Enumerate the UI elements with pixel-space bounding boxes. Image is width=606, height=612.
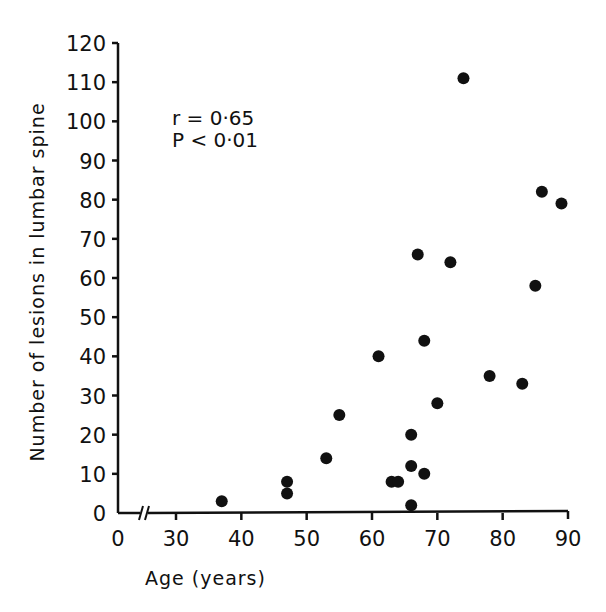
- y-tick-label: 50: [79, 306, 106, 330]
- data-point: [536, 186, 548, 198]
- data-point: [281, 487, 293, 499]
- y-tick-label: 60: [79, 267, 106, 291]
- scatter-chart: 0102030405060708090100110120 03040506070…: [0, 0, 606, 612]
- data-point: [405, 429, 417, 441]
- y-tick-label: 90: [79, 150, 106, 174]
- y-tick-label: 80: [79, 189, 106, 213]
- x-tick-label: 40: [228, 527, 255, 551]
- data-point: [373, 350, 385, 362]
- data-point: [405, 499, 417, 511]
- y-tick-label: 100: [66, 110, 106, 134]
- x-tick-label: 50: [293, 527, 320, 551]
- data-point: [281, 476, 293, 488]
- data-point: [405, 460, 417, 472]
- data-point: [444, 256, 456, 268]
- y-tick-label: 10: [79, 463, 106, 487]
- y-tick-label: 30: [79, 385, 106, 409]
- data-point: [392, 476, 404, 488]
- x-axis-title: Age (years): [145, 567, 266, 589]
- y-tick-label: 120: [66, 32, 106, 56]
- y-tick-label: 20: [79, 424, 106, 448]
- data-point: [555, 198, 567, 210]
- data-point: [484, 370, 496, 382]
- y-tick-label: 40: [79, 345, 106, 369]
- y-axis-ticks: 0102030405060708090100110120: [66, 32, 118, 526]
- data-point: [333, 409, 345, 421]
- x-tick-label: 0: [111, 527, 124, 551]
- data-point: [516, 378, 528, 390]
- y-tick-label: 70: [79, 228, 106, 252]
- y-tick-label: 110: [66, 71, 106, 95]
- x-tick-label: 70: [424, 527, 451, 551]
- data-point: [320, 452, 332, 464]
- x-tick-label: 80: [489, 527, 516, 551]
- annotation-p: P < 0·01: [172, 128, 258, 152]
- x-tick-label: 30: [163, 527, 190, 551]
- data-point: [418, 468, 430, 480]
- data-point: [457, 72, 469, 84]
- data-point: [412, 249, 424, 261]
- y-tick-label: 0: [93, 502, 106, 526]
- data-point: [529, 280, 541, 292]
- data-point: [418, 335, 430, 347]
- x-tick-label: 60: [359, 527, 386, 551]
- annotation-r: r = 0·65: [172, 106, 254, 130]
- x-axis-ticks: 030405060708090: [111, 513, 581, 551]
- y-axis-title: Number of lesions in lumbar spine: [26, 102, 48, 461]
- data-points: [216, 72, 568, 511]
- x-tick-label: 90: [555, 527, 582, 551]
- data-point: [431, 397, 443, 409]
- data-point: [216, 495, 228, 507]
